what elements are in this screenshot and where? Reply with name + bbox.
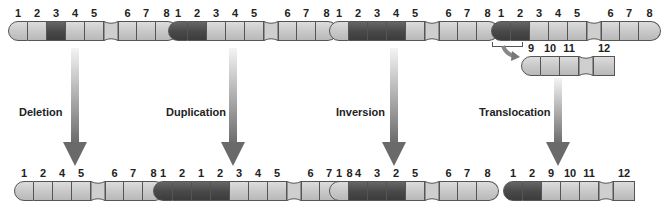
chromosome-band: 7 <box>124 181 143 201</box>
band-number: 3 <box>368 7 386 19</box>
deletion-arrow-icon <box>63 48 87 166</box>
centromere <box>287 181 301 201</box>
chromosome-band: 11 <box>580 181 599 201</box>
band-number: 10 <box>561 167 579 179</box>
band-number: 3 <box>47 7 65 19</box>
translocation-arrow-icon <box>546 78 570 166</box>
chromosome-band: 6 <box>105 181 124 201</box>
band-number: 4 <box>387 7 405 19</box>
chromosome-band: 2 <box>349 21 368 41</box>
chromosome-band: 6 <box>118 21 137 41</box>
chromosome-band: 1 <box>8 21 28 41</box>
chromosome-band: 11 <box>560 56 579 76</box>
chromosome-band: 2 <box>173 181 192 201</box>
band-number: 6 <box>119 7 136 19</box>
chromosome-band: 1 <box>329 181 349 201</box>
chromosome-band: 5 <box>568 21 587 41</box>
band-number: 7 <box>137 7 155 19</box>
chromosome-band: 7 <box>620 21 639 41</box>
chromosome-band: 2 <box>28 21 47 41</box>
chromosome-band: 1 <box>14 181 34 201</box>
chromosome-band: 2 <box>387 181 406 201</box>
band-number: 10 <box>541 42 559 54</box>
band-number: 2 <box>188 7 206 19</box>
band-number: 2 <box>211 167 229 179</box>
chromosome-band: 6 <box>439 21 458 41</box>
centromere <box>425 181 439 201</box>
band-number: 7 <box>458 7 476 19</box>
band-number: 1 <box>15 167 33 179</box>
chromosome-band: 2 <box>511 21 530 41</box>
band-number: 12 <box>614 167 634 179</box>
centromere <box>579 56 593 76</box>
band-number: 2 <box>523 167 541 179</box>
deletion-label: Deletion <box>19 106 62 118</box>
centromere <box>587 21 601 41</box>
band-number: 9 <box>542 167 560 179</box>
band-number: 3 <box>207 7 225 19</box>
band-number: 11 <box>580 167 598 179</box>
chromosome-band: 1 <box>153 181 173 201</box>
band-number: 12 <box>594 42 614 54</box>
chromosome-band: 6 <box>278 21 297 41</box>
band-number: 8 <box>477 167 498 179</box>
chromosome-band: 2 <box>34 181 53 201</box>
band-number: 5 <box>245 7 263 19</box>
chromosome-band: 4 <box>549 21 568 41</box>
band-number: 4 <box>66 7 84 19</box>
chromosome-band: 2 <box>188 21 207 41</box>
chromosome-band: 3 <box>207 21 226 41</box>
chromosome-band: 1 <box>329 21 349 41</box>
chromosome-band: 9 <box>542 181 561 201</box>
band-number: 4 <box>349 167 367 179</box>
chromosome-band: 1 <box>192 181 211 201</box>
band-number: 6 <box>106 167 123 179</box>
chromosome-band: 6 <box>601 21 620 41</box>
deletion-before-chromosome: 12345678 <box>8 21 178 41</box>
band-number: 2 <box>34 167 52 179</box>
band-number: 4 <box>549 7 567 19</box>
chromosome-band: 10 <box>541 56 560 76</box>
deletion-after-chromosome: 1245678 <box>14 181 165 201</box>
band-number: 5 <box>568 7 586 19</box>
translocation-after-chromosome: 129101112 <box>503 181 635 201</box>
chromosome-band: 4 <box>349 181 368 201</box>
chromosome-band: 6 <box>301 181 320 201</box>
chromosome-band: 5 <box>406 21 425 41</box>
chromosome-band: 5 <box>85 21 104 41</box>
chromosome-band: 4 <box>53 181 72 201</box>
band-number: 1 <box>192 167 210 179</box>
band-number: 1 <box>9 7 27 19</box>
band-number: 1 <box>154 167 172 179</box>
band-number: 1 <box>330 7 348 19</box>
inversion-before-chromosome: 12345678 <box>329 21 499 41</box>
chromosome-band: 5 <box>245 21 264 41</box>
band-number: 3 <box>368 167 386 179</box>
chromosome-band: 10 <box>561 181 580 201</box>
chromosome-band: 4 <box>249 181 268 201</box>
chromosome-band: 3 <box>47 21 66 41</box>
band-number: 5 <box>85 7 103 19</box>
band-number: 5 <box>406 7 424 19</box>
band-number: 4 <box>53 167 71 179</box>
chromosome-band: 8 <box>639 21 661 41</box>
chromosome-band: 8 <box>477 181 499 201</box>
duplication-before-chromosome: 12345678 <box>168 21 338 41</box>
band-number: 5 <box>268 167 286 179</box>
chromosome-band: 6 <box>439 181 458 201</box>
chromosome-band: 3 <box>368 21 387 41</box>
centromere <box>425 21 439 41</box>
band-number: 2 <box>387 167 405 179</box>
translocation-before-chromosome: 12345678 <box>491 21 661 41</box>
band-number: 6 <box>302 167 319 179</box>
chromosome-band: 3 <box>230 181 249 201</box>
chromosome-band: 12 <box>593 56 615 76</box>
translocation-partner-chromosome: 9101112 <box>521 56 615 76</box>
band-number: 11 <box>560 42 578 54</box>
band-number: 6 <box>279 7 296 19</box>
chromosome-band: 1 <box>491 21 511 41</box>
centromere <box>104 21 118 41</box>
chromosome-band: 2 <box>211 181 230 201</box>
chromosome-band: 5 <box>268 181 287 201</box>
band-number: 2 <box>28 7 46 19</box>
